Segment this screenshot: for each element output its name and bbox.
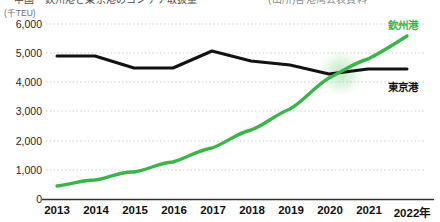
x-tick-2016: 2016 xyxy=(161,204,187,216)
x-axis-labels: 2013 2014 2015 2016 2017 2018 2019 2020 … xyxy=(0,201,440,222)
x-tick-2020: 2020 xyxy=(317,204,343,216)
x-tick-2017: 2017 xyxy=(200,204,226,216)
chart-container: 中国・欽州港と東京港のコンテナ取扱量 (出所)各港湾公表資料 (千TEU) 6,… xyxy=(0,0,440,222)
chart-plot-area xyxy=(0,0,440,222)
gridlines xyxy=(46,24,424,170)
series-label-qinzhou: 欽州港 xyxy=(388,17,418,32)
x-tick-2013: 2013 xyxy=(44,204,70,216)
x-tick-2019: 2019 xyxy=(278,204,304,216)
x-tick-2021: 2021 xyxy=(356,204,382,216)
series-label-tokyo: 東京港 xyxy=(388,79,418,94)
x-tick-2015: 2015 xyxy=(122,204,148,216)
x-tick-2022: 2022年 xyxy=(394,204,431,220)
x-tick-2018: 2018 xyxy=(239,204,265,216)
x-tick-2014: 2014 xyxy=(83,204,109,216)
